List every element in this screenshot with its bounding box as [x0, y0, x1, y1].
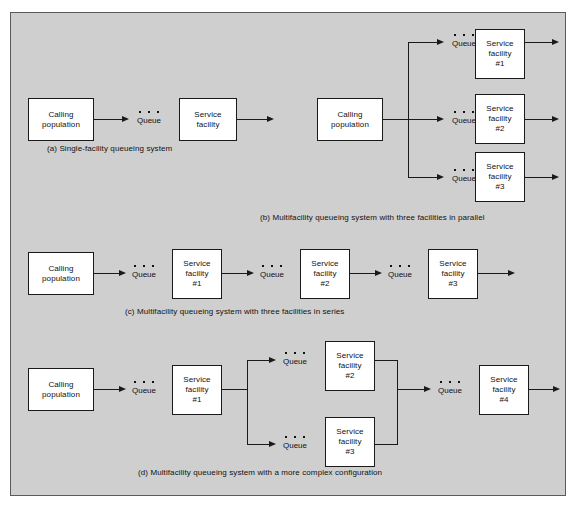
- panel-c-service-facility-3: Service facility #3: [428, 249, 478, 299]
- panel-d-arrow-1: [119, 386, 126, 392]
- panel-d-queue-4: Queue: [438, 381, 462, 395]
- figure-frame: Calling population Queue Service facilit…: [10, 12, 566, 496]
- panel-b-arrow-head-2: [437, 116, 444, 122]
- queue-label: Queue: [283, 441, 307, 450]
- panel-a-arrow-head-1: [122, 116, 129, 122]
- queue-dots: [134, 381, 154, 383]
- panel-c-calling-population: Calling population: [28, 252, 94, 295]
- panel-d-service-facility-2: Service facility #2: [325, 341, 375, 391]
- panel-b-service-facility-3: Service facility #3: [475, 152, 525, 202]
- panel-c-exit-line: [478, 273, 508, 274]
- queue-label: Queue: [388, 270, 412, 279]
- queue-dots: [285, 352, 305, 354]
- node-label-line2: population: [42, 390, 80, 400]
- panel-b-arrow-head-1: [437, 39, 444, 45]
- node-label-line2: facility: [488, 49, 511, 59]
- node-label-line2: facility: [185, 385, 208, 395]
- node-label-line3: #1: [192, 395, 201, 405]
- panel-d-caption: (d) Multifacility queueing system with a…: [138, 468, 382, 478]
- node-label-line1: Service: [183, 375, 210, 385]
- panel-d-merge-branch-upper: [375, 360, 397, 361]
- panel-b-exit-line-2: [525, 119, 552, 120]
- node-label-line1: Calling: [337, 110, 362, 120]
- node-label-line1: Service: [486, 162, 513, 172]
- panel-a-caption: (a) Single-facility queueing system: [47, 144, 172, 154]
- node-label-line2: facility: [441, 269, 464, 279]
- panel-d-calling-population: Calling population: [28, 368, 94, 411]
- node-label-line1: Service: [439, 259, 466, 269]
- panel-d-exit-arrow: [553, 386, 560, 392]
- node-label-line2: facility: [196, 120, 219, 130]
- panel-d-split-vertical: [247, 360, 248, 444]
- queue-dots: [454, 34, 474, 36]
- panel-d-queue-1: Queue: [132, 381, 156, 395]
- panel-c-queue-2: Queue: [260, 265, 284, 279]
- panel-d-merge-trunk: [397, 389, 424, 390]
- panel-d-split-trunk: [222, 389, 247, 390]
- panel-c-arrow-2: [247, 270, 254, 276]
- node-label-line2: population: [42, 120, 80, 130]
- panel-b-queue-1: Queue: [452, 34, 476, 48]
- panel-b-exit-line-1: [525, 42, 552, 43]
- panel-b-service-facility-1: Service facility #1: [475, 29, 525, 79]
- node-label-line1: Service: [336, 351, 363, 361]
- panel-d-queue-3: Queue: [283, 436, 307, 450]
- node-label-line1: Service: [486, 39, 513, 49]
- panel-b-branch-line-2: [408, 119, 437, 120]
- node-label-line1: Calling: [48, 110, 73, 120]
- queue-label: Queue: [452, 39, 476, 48]
- panel-c-exit-arrow: [508, 270, 515, 276]
- panel-d-queue-2: Queue: [283, 352, 307, 366]
- panel-d-merge-vertical: [397, 360, 398, 445]
- queue-label: Queue: [137, 116, 161, 125]
- node-label-line3: #2: [495, 124, 504, 134]
- panel-b-queue-2: Queue: [452, 111, 476, 125]
- panel-c-arrow-3: [375, 270, 382, 276]
- node-label-line2: facility: [338, 437, 361, 447]
- queue-dots: [134, 265, 154, 267]
- queue-dots: [454, 111, 474, 113]
- panel-b-exit-arrow-1: [552, 39, 559, 45]
- panel-d-split-arrow-lower: [269, 441, 276, 447]
- panel-d-split-branch-upper: [247, 360, 269, 361]
- panel-a-arrow-line-1: [94, 119, 122, 120]
- node-label-line2: population: [42, 274, 80, 284]
- panel-b-branch-line-3: [408, 177, 437, 178]
- node-label-line1: Service: [183, 259, 210, 269]
- queue-dots: [262, 265, 282, 267]
- node-label-line2: facility: [338, 361, 361, 371]
- node-label-line3: #1: [495, 59, 504, 69]
- panel-d-service-facility-4: Service facility #4: [479, 365, 529, 415]
- panel-d-merge-branch-lower: [375, 444, 397, 445]
- panel-c-service-facility-1: Service facility #1: [172, 249, 222, 299]
- panel-a-queue-1: Queue: [137, 111, 161, 125]
- panel-b-bus-vertical: [408, 42, 409, 177]
- panel-d-split-arrow-upper: [269, 357, 276, 363]
- panel-c-queue-3: Queue: [388, 265, 412, 279]
- queue-dots: [390, 265, 410, 267]
- panel-b-calling-population: Calling population: [317, 98, 383, 141]
- queue-label: Queue: [452, 116, 476, 125]
- panel-b-arrow-head-3: [437, 174, 444, 180]
- panel-d-service-facility-3: Service facility #3: [325, 417, 375, 467]
- node-label-line2: facility: [185, 269, 208, 279]
- panel-b-exit-line-3: [525, 177, 552, 178]
- node-label-line1: Service: [194, 110, 221, 120]
- node-label-line3: #1: [192, 279, 201, 289]
- queue-dots: [440, 381, 460, 383]
- panel-c-line-3: [350, 273, 375, 274]
- panel-d-merge-arrow: [424, 386, 431, 392]
- queue-label: Queue: [132, 386, 156, 395]
- queue-label: Queue: [283, 357, 307, 366]
- panel-b-exit-arrow-3: [552, 174, 559, 180]
- queue-dots: [285, 436, 305, 438]
- panel-b-trunk-line: [383, 119, 408, 120]
- node-label-line1: Calling: [48, 264, 73, 274]
- panel-b-queue-3: Queue: [452, 169, 476, 183]
- panel-c-service-facility-2: Service facility #2: [300, 249, 350, 299]
- panel-d-service-facility-1: Service facility #1: [172, 365, 222, 415]
- node-label-line1: Service: [336, 427, 363, 437]
- node-label-line1: Calling: [48, 380, 73, 390]
- node-label-line3: #3: [495, 182, 504, 192]
- queue-label: Queue: [260, 270, 284, 279]
